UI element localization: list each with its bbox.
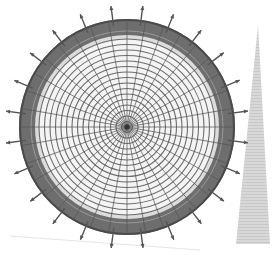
- gray-triangle-shape: [236, 25, 270, 244]
- diagram-stage: [0, 0, 280, 266]
- radial-diagram: [0, 0, 280, 266]
- paper-edge-line: [10, 236, 200, 250]
- hub-dot: [125, 125, 130, 130]
- center-hub: [125, 125, 130, 130]
- triangle-body: [236, 25, 270, 244]
- paper-sheet: [10, 236, 200, 250]
